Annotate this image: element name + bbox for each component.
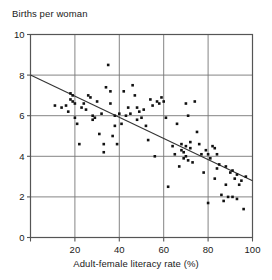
data-point [185,155,188,158]
data-point [69,92,72,95]
y-tick-label: 8 [19,70,24,81]
data-point [178,165,181,168]
data-point [65,104,68,107]
data-point [76,123,79,126]
data-point [182,157,185,160]
data-point [125,114,128,117]
data-point [149,98,152,101]
data-point [122,90,125,93]
data-point [245,175,248,178]
data-point [242,208,245,211]
plot-frame [31,35,253,238]
data-point [196,131,199,134]
data-point [74,102,77,105]
data-point [180,143,183,146]
data-point [216,167,219,170]
y-tick-label: 6 [19,110,24,121]
x-tick-label: 100 [245,244,261,255]
data-point [118,112,121,115]
data-point [94,116,97,119]
data-point [91,118,94,121]
data-points [54,64,248,211]
data-point [171,145,174,148]
x-axis-title: Adult-female literacy rate (%) [0,258,272,269]
data-point [134,94,137,97]
data-point [89,96,92,99]
x-tick-label: 60 [158,244,169,255]
data-point [236,173,239,176]
data-point [140,116,143,119]
data-point [187,159,190,162]
data-point [225,165,228,168]
data-point [127,106,130,109]
data-point [187,114,190,117]
data-point [211,145,214,148]
data-point [200,153,203,156]
data-point [145,125,148,128]
data-point [198,143,201,146]
data-point [213,177,216,180]
data-point [71,100,74,103]
data-point [151,104,154,107]
data-point [185,145,188,148]
y-tick-label: 4 [19,151,24,162]
data-point [91,114,94,117]
data-point [209,157,212,160]
data-point [105,86,108,89]
data-point [213,147,216,150]
data-point [60,106,63,109]
data-point [67,110,70,113]
data-point [182,151,185,154]
data-point [189,141,192,144]
data-point [109,102,112,105]
data-point [102,143,105,146]
data-point [96,100,99,103]
data-point [236,198,239,201]
data-point [174,153,177,156]
data-point [82,102,85,105]
grid-lines [31,35,253,238]
data-point [185,102,188,105]
data-point [131,84,134,87]
x-tick-label: 40 [114,244,125,255]
data-point [202,171,205,174]
x-tick-label: 80 [203,244,214,255]
data-point [142,108,145,111]
axis-lines [31,35,253,238]
data-point [85,108,88,111]
data-point [176,123,179,126]
data-point [205,149,208,152]
data-point [129,112,132,115]
data-point [114,114,117,117]
data-point [240,179,243,182]
data-point [54,104,57,107]
data-point [180,149,183,152]
data-point [218,163,221,166]
data-point [160,96,163,99]
data-point [238,183,241,186]
data-point [102,151,105,154]
data-point [69,98,72,101]
data-point [116,143,119,146]
data-point [231,169,234,172]
data-point [74,116,77,119]
data-point [233,177,236,180]
data-point [136,106,139,109]
data-point [162,100,165,103]
data-point [87,94,90,97]
data-point [158,102,161,105]
data-point [225,183,228,186]
data-point [111,135,114,138]
data-point [114,125,117,128]
data-point [231,196,234,199]
chart-figure: Births per woman 0246810 20406080100 Adu… [0,0,272,280]
data-point [220,194,223,197]
data-point [100,112,103,115]
data-point [147,139,150,142]
x-tick-label: 20 [70,244,81,255]
data-point [156,100,159,103]
y-tick-label: 10 [14,29,25,40]
data-point [71,94,74,97]
y-tick-label: 0 [19,232,24,243]
scatter-plot-canvas: 0246810 20406080100 [0,0,272,280]
